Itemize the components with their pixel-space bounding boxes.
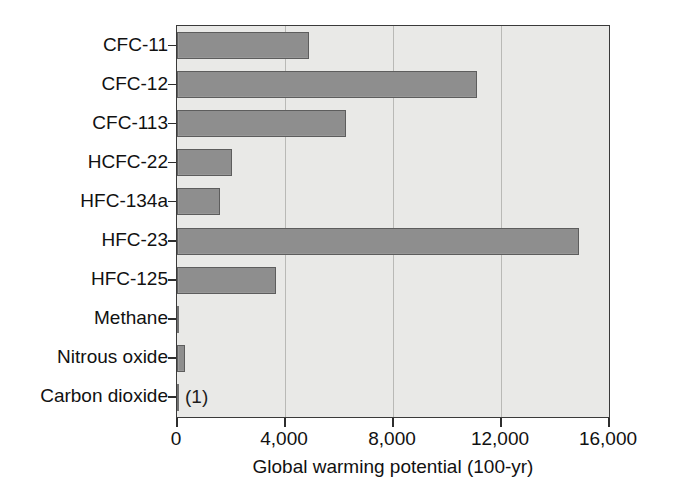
bar [177, 149, 232, 176]
category-label: CFC-12 [101, 74, 168, 93]
category-label: HFC-23 [101, 230, 168, 249]
bar [177, 228, 579, 255]
bar-row [177, 26, 609, 65]
category-label: CFC-113 [92, 113, 168, 132]
x-axis-tick-label: 16,000 [579, 428, 637, 450]
x-axis-tick-label: 0 [171, 428, 182, 450]
x-axis-tick [500, 418, 502, 427]
bar [177, 306, 179, 333]
category-tick [168, 45, 176, 47]
bar [177, 110, 346, 137]
category-tick [168, 162, 176, 164]
bar [177, 345, 185, 372]
category-label: CFC-11 [103, 35, 168, 54]
bar [177, 71, 477, 98]
bar [177, 384, 179, 411]
bar-row [177, 182, 609, 221]
bar-row [177, 261, 609, 300]
x-axis-tick [608, 418, 610, 427]
bar-chart: CFC-11CFC-12CFC-113HCFC-22HFC-134aHFC-23… [0, 0, 675, 495]
x-axis-tick-labels: 04,0008,00012,00016,000 [0, 428, 675, 454]
bar [177, 32, 309, 59]
bar-row [177, 143, 609, 182]
category-tick [168, 123, 176, 125]
category-tick [168, 84, 176, 86]
plot-area: (1) [176, 25, 610, 418]
x-axis-tick [392, 418, 394, 427]
bar-value-annotation: (1) [185, 386, 208, 408]
category-label: Methane [94, 308, 168, 327]
category-label: Nitrous oxide [57, 347, 168, 366]
category-tick [168, 201, 176, 203]
category-axis: CFC-11CFC-12CFC-113HCFC-22HFC-134aHFC-23… [0, 25, 168, 418]
x-axis-tick-label: 4,000 [260, 428, 308, 450]
bar [177, 267, 276, 294]
bar-row [177, 65, 609, 104]
category-tick [168, 279, 176, 281]
category-tick [168, 318, 176, 320]
x-axis-ticks [176, 418, 610, 428]
x-axis-title: Global warming potential (100-yr) [176, 456, 610, 478]
x-axis-tick [284, 418, 286, 427]
bar-row [177, 104, 609, 143]
bar-row [177, 378, 609, 417]
x-axis-tick [176, 418, 178, 427]
category-tick [168, 396, 176, 398]
bar [177, 188, 220, 215]
bar-row [177, 222, 609, 261]
x-axis-tick-label: 12,000 [471, 428, 529, 450]
category-tick [168, 240, 176, 242]
x-axis-tick-label: 8,000 [368, 428, 416, 450]
category-label: HFC-134a [80, 191, 168, 210]
category-label: HFC-125 [91, 269, 168, 288]
bar-row [177, 300, 609, 339]
category-label: Carbon dioxide [40, 386, 168, 405]
bar-row [177, 339, 609, 378]
category-label: HCFC-22 [88, 152, 168, 171]
category-tick [168, 357, 176, 359]
